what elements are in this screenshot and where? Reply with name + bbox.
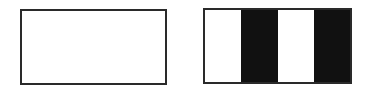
blank-rectangle bbox=[20, 9, 167, 85]
striped-rectangle bbox=[203, 8, 352, 84]
stripe-black-1 bbox=[241, 10, 277, 82]
stripe-white-1 bbox=[205, 10, 241, 82]
stripe-black-2 bbox=[314, 10, 350, 82]
stripe-white-2 bbox=[278, 10, 314, 82]
